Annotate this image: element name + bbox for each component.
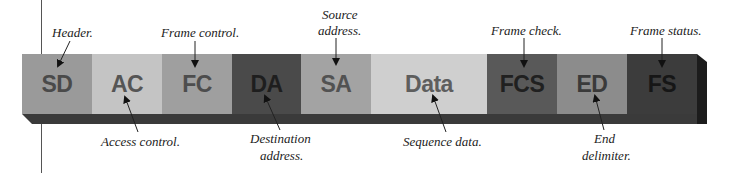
arrow-destination-address	[265, 96, 280, 130]
arrow-header	[58, 41, 70, 66]
callout-arrows	[0, 0, 732, 173]
arrow-sequence-data	[433, 96, 446, 132]
arrow-access-control	[125, 97, 138, 132]
arrow-end-delimiter	[595, 96, 604, 130]
